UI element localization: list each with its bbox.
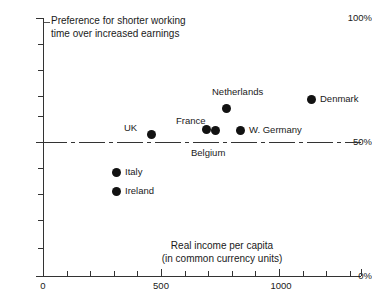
x-axis-line (43, 276, 361, 277)
x-tick-500 (161, 269, 162, 276)
point-label-denmark: Denmark (320, 93, 359, 104)
x-tick-900 (255, 271, 256, 276)
y-axis-line (43, 18, 44, 276)
x-tick-0 (43, 269, 44, 276)
y-tick-10 (38, 248, 43, 249)
x-tick-300 (114, 271, 115, 276)
point-label-belgium: Belgium (191, 147, 225, 158)
y-tick-60 (38, 116, 43, 117)
y-tick-90 (38, 44, 43, 45)
y-tick-30 (38, 194, 43, 195)
point-label-netherlands: Netherlands (212, 86, 263, 97)
x-tick-1200 (326, 271, 327, 276)
data-point-ireland[interactable] (112, 187, 121, 196)
reference-line-gaps (43, 141, 361, 144)
y-tick-40 (38, 168, 43, 169)
x-tick-1100 (303, 271, 304, 276)
point-label-w-germany: W. Germany (249, 124, 302, 135)
y-tick-80 (38, 70, 43, 71)
y-axis-label-100: 100% (336, 13, 372, 23)
data-point-uk[interactable] (147, 130, 156, 139)
data-point-denmark[interactable] (307, 95, 316, 104)
x-tick-700 (208, 271, 209, 276)
point-label-uk: UK (124, 122, 137, 133)
x-tick-100 (67, 271, 68, 276)
x-tick-200 (90, 271, 91, 276)
x-tick-400 (137, 271, 138, 276)
chart-title: Preference for shorter working time over… (51, 15, 186, 40)
point-label-france: France (176, 115, 206, 126)
y-tick-20 (38, 220, 43, 221)
x-axis-end-tick (361, 269, 362, 276)
x-tick-800 (232, 271, 233, 276)
data-point-italy[interactable] (112, 168, 121, 177)
y-tick-70 (38, 96, 43, 97)
x-axis-label-0: 0 (40, 280, 45, 291)
x-axis-label-1000: 1000 (270, 280, 291, 291)
x-axis-label-500: 500 (153, 280, 169, 291)
point-label-ireland: Ireland (125, 185, 154, 196)
y-tick-50 (36, 142, 43, 143)
scatter-chart: Preference for shorter working time over… (0, 0, 372, 302)
title-leader-tick (44, 22, 50, 23)
data-point-w-germany[interactable] (236, 126, 245, 135)
data-point-belgium[interactable] (211, 126, 220, 135)
y-tick-100 (36, 18, 43, 19)
data-point-netherlands[interactable] (222, 104, 231, 113)
point-label-italy: Italy (125, 166, 142, 177)
y-axis-label-0: 0% (336, 271, 372, 281)
x-axis-caption: Real income per capita (in common curren… (162, 240, 283, 265)
x-tick-1300 (350, 271, 351, 276)
y-tick-0 (36, 276, 43, 277)
x-tick-600 (185, 271, 186, 276)
x-tick-1000 (279, 269, 280, 276)
